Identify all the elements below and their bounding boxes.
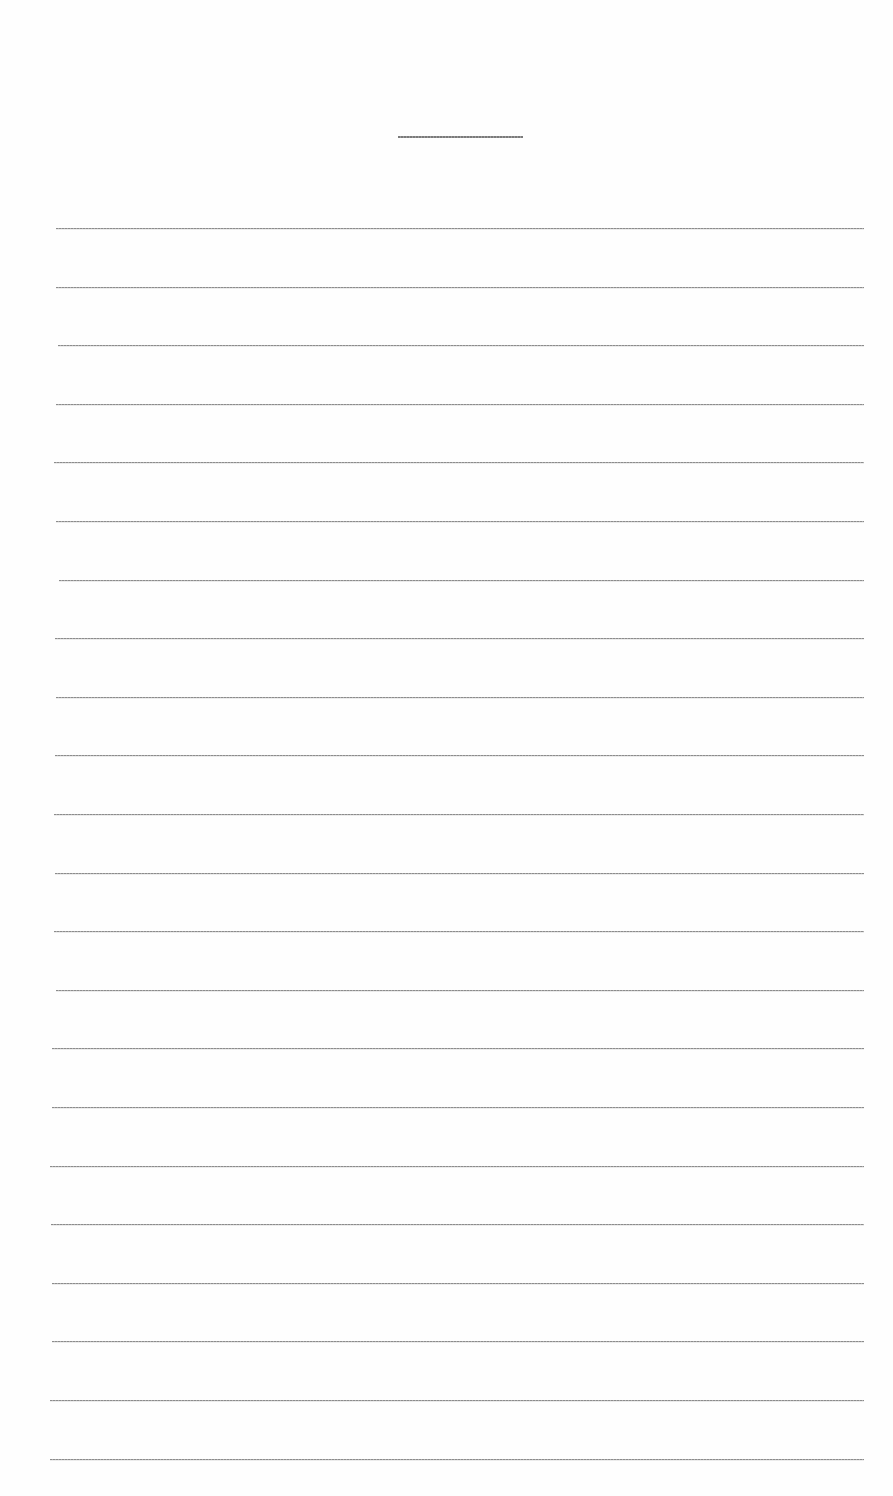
ruled-line — [54, 931, 864, 932]
ruled-line — [56, 404, 864, 405]
ruled-line — [50, 1459, 864, 1460]
ruled-line — [52, 1048, 864, 1049]
ruled-line — [50, 1400, 864, 1401]
ruled-line — [56, 228, 864, 229]
ruled-line — [55, 873, 864, 874]
ruled-line — [55, 755, 864, 756]
ruled-line — [52, 1107, 864, 1108]
ruled-line — [56, 287, 864, 288]
ruled-line — [52, 1283, 864, 1284]
ruled-line — [59, 580, 864, 581]
ruled-line — [56, 521, 864, 522]
ruled-line — [56, 697, 864, 698]
ruled-line — [54, 814, 864, 815]
ruled-lines-container — [0, 0, 893, 1496]
ruled-line — [54, 462, 864, 463]
ruled-line — [50, 1166, 864, 1167]
ruled-line — [58, 345, 864, 346]
ruled-line — [56, 990, 864, 991]
ruled-line — [52, 1341, 864, 1342]
ruled-line — [55, 638, 864, 639]
lined-paper-page — [0, 0, 893, 1496]
ruled-line — [51, 1224, 864, 1225]
